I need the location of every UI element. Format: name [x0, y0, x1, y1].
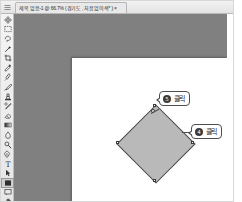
- document-tab-label: 제목 없음-1 @ 66.7% (경기도 , 처음없이색* ) ×: [19, 5, 117, 11]
- svg-text:T: T: [5, 160, 10, 168]
- type-tool[interactable]: T: [1, 159, 14, 169]
- title-bar: 제목 없음-1 @ 66.7% (경기도 , 처음없이색* ) ×: [1, 1, 234, 14]
- callout-step-5: 5 클릭: [159, 91, 190, 106]
- path-selection-tool[interactable]: [1, 169, 14, 179]
- callout-5-label: 클릭: [174, 95, 186, 103]
- eraser-tool[interactable]: [1, 111, 14, 121]
- healing-brush-tool[interactable]: [1, 73, 14, 83]
- callout-4-number: 4: [195, 128, 203, 136]
- crop-tool[interactable]: [1, 53, 14, 63]
- document-tab[interactable]: 제목 없음-1 @ 66.7% (경기도 , 처음없이색* ) ×: [15, 2, 127, 13]
- tool-palette[interactable]: T: [1, 14, 14, 202]
- hand-tool[interactable]: [1, 197, 14, 202]
- screenshot-root: 제목 없음-1 @ 66.7% (경기도 , 처음없이색* ) ×: [0, 0, 242, 202]
- callout-4-tail-fill: [190, 130, 194, 136]
- workspace-area[interactable]: [14, 14, 227, 202]
- gradient-tool[interactable]: [1, 121, 14, 131]
- dodge-tool[interactable]: [1, 140, 14, 150]
- notes-tool[interactable]: [1, 188, 14, 198]
- history-brush-tool[interactable]: [1, 101, 14, 111]
- pen-tool[interactable]: [1, 149, 14, 159]
- brush-tool[interactable]: [1, 82, 14, 92]
- menu-icon[interactable]: [2, 2, 13, 13]
- marquee-tool[interactable]: [1, 25, 14, 35]
- callout-4-label: 클릭: [206, 128, 218, 136]
- magic-wand-tool[interactable]: [1, 44, 14, 54]
- callout-5-tail-fill: [158, 97, 162, 103]
- eyedropper-tool[interactable]: [1, 63, 14, 73]
- application-window: 제목 없음-1 @ 66.7% (경기도 , 처음없이색* ) ×: [0, 0, 234, 202]
- lasso-tool[interactable]: [1, 34, 14, 44]
- blur-tool[interactable]: [1, 130, 14, 140]
- clone-stamp-tool[interactable]: [1, 92, 14, 102]
- callout-5-number: 5: [163, 95, 171, 103]
- shape-tool[interactable]: [1, 178, 14, 188]
- move-tool[interactable]: [1, 15, 14, 25]
- callout-step-4: 4 클릭: [191, 124, 222, 139]
